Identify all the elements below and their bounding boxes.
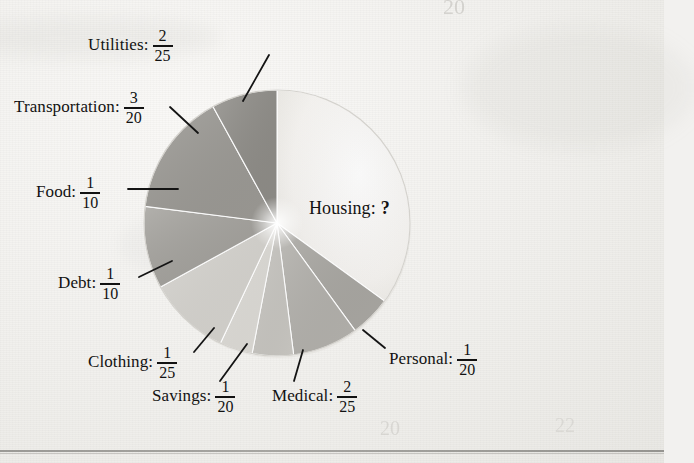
label-personal-fraction: 1 20 xyxy=(457,342,477,378)
label-transportation-category: Transportation: xyxy=(14,98,120,116)
label-debt-category: Debt: xyxy=(58,274,96,292)
label-personal-denominator: 20 xyxy=(457,362,477,378)
label-food: Food: 1 10 xyxy=(36,174,100,210)
label-personal-category: Personal: xyxy=(389,350,453,368)
label-food-denominator: 10 xyxy=(80,195,100,211)
label-savings-fraction: 1 20 xyxy=(215,379,235,415)
page-bottom-rule xyxy=(0,450,664,452)
label-clothing-fraction: 1 25 xyxy=(157,345,177,381)
label-medical-category: Medical: xyxy=(272,387,333,405)
pie-center-highlight xyxy=(251,197,303,249)
label-debt: Debt: 1 10 xyxy=(58,265,120,301)
label-clothing-category: Clothing: xyxy=(88,353,153,371)
label-transportation-fraction: 3 20 xyxy=(124,90,144,126)
label-food-fraction: 1 10 xyxy=(80,175,100,211)
label-savings: Savings: 1 20 xyxy=(152,378,235,414)
label-utilities-numerator: 2 xyxy=(157,28,169,44)
label-clothing: Clothing: 1 25 xyxy=(88,344,177,380)
label-utilities: Utilities: 2 25 xyxy=(88,27,173,63)
label-savings-denominator: 20 xyxy=(215,399,235,415)
label-medical-denominator: 25 xyxy=(337,399,357,415)
page-bottom-rule-shadow xyxy=(0,453,664,454)
label-debt-numerator: 1 xyxy=(104,266,116,282)
leader-line-personal xyxy=(363,330,385,348)
label-personal-numerator: 1 xyxy=(461,342,473,358)
label-clothing-numerator: 1 xyxy=(161,345,173,361)
label-personal: Personal: 1 20 xyxy=(389,341,477,377)
label-transportation-denominator: 20 xyxy=(124,110,144,126)
label-food-numerator: 1 xyxy=(84,175,96,191)
label-utilities-denominator: 25 xyxy=(153,48,173,64)
label-transportation-numerator: 3 xyxy=(128,90,140,106)
label-housing-category: Housing: xyxy=(309,199,376,218)
label-utilities-category: Utilities: xyxy=(88,36,149,54)
label-debt-denominator: 10 xyxy=(100,286,120,302)
label-utilities-fraction: 2 25 xyxy=(153,28,173,64)
label-food-category: Food: xyxy=(36,183,76,201)
label-medical: Medical: 2 25 xyxy=(272,378,357,414)
label-housing-unknown-value: ? xyxy=(381,199,390,218)
label-housing: Housing: ? xyxy=(309,199,390,218)
label-debt-fraction: 1 10 xyxy=(100,266,120,302)
label-savings-numerator: 1 xyxy=(219,379,231,395)
label-transportation: Transportation: 3 20 xyxy=(14,89,144,125)
label-medical-fraction: 2 25 xyxy=(337,379,357,415)
label-savings-category: Savings: xyxy=(152,387,211,405)
label-medical-numerator: 2 xyxy=(341,379,353,395)
